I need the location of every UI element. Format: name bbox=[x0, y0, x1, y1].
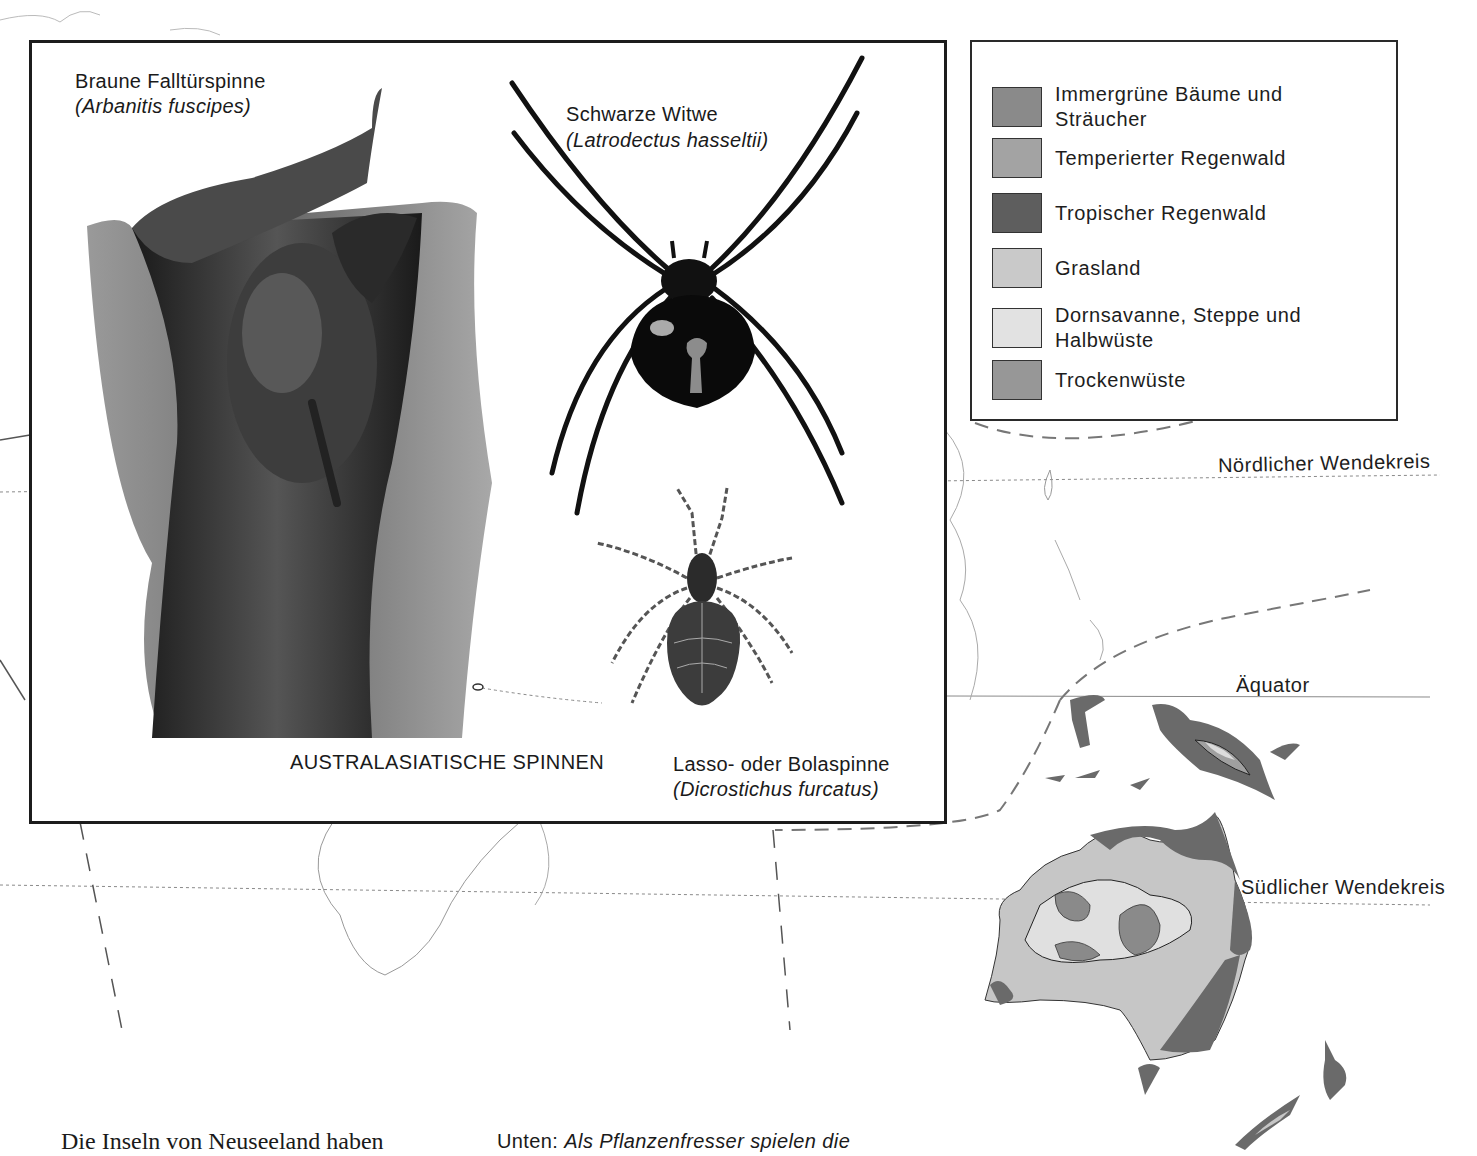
legend-swatch bbox=[992, 360, 1042, 400]
equator-line bbox=[945, 696, 1430, 697]
legend-swatch bbox=[992, 308, 1042, 348]
legend-label: Tropischer Regenwald bbox=[1055, 201, 1266, 226]
new-zealand bbox=[1235, 1040, 1346, 1150]
legend-label: Grasland bbox=[1055, 256, 1141, 281]
legend-item-evergreen: Immergrüne Bäume und Sträucher bbox=[992, 82, 1283, 132]
trapdoor-spider-illustration bbox=[72, 83, 502, 743]
legend-swatch bbox=[992, 248, 1042, 288]
south-tropic-label: Südlicher Wendekreis bbox=[1241, 876, 1445, 899]
australia bbox=[985, 812, 1252, 1095]
legend-label: Dornsavanne, Steppe und Halbwüste bbox=[1055, 303, 1301, 353]
legend-label: Trockenwüste bbox=[1055, 368, 1186, 393]
legend-swatch bbox=[992, 138, 1042, 178]
legend-item-thorn-savanna: Dornsavanne, Steppe und Halbwüste bbox=[992, 303, 1301, 353]
vegetation-legend: Immergrüne Bäume und Sträucher Temperier… bbox=[970, 40, 1398, 421]
inset-title: AUSTRALASIATISCHE SPINNEN bbox=[290, 751, 604, 774]
black-widow-illustration bbox=[502, 53, 902, 523]
legend-item-grassland: Grasland bbox=[992, 248, 1141, 288]
legend-swatch bbox=[992, 87, 1042, 127]
bolas-spider-latin: (Dicrostichus furcatus) bbox=[673, 778, 879, 801]
equator-label: Äquator bbox=[1236, 674, 1310, 697]
legend-swatch bbox=[992, 193, 1042, 233]
figure-caption: Unten: Als Pflanzenfresser spielen die bbox=[497, 1130, 850, 1153]
caption-prefix: Unten: bbox=[497, 1130, 558, 1152]
legend-item-temperate-rainforest: Temperierter Regenwald bbox=[992, 138, 1286, 178]
legend-item-dry-desert: Trockenwüste bbox=[992, 360, 1186, 400]
legend-label: Temperierter Regenwald bbox=[1055, 146, 1286, 171]
legend-label: Immergrüne Bäume und Sträucher bbox=[1055, 82, 1283, 132]
legend-item-tropical-rainforest: Tropischer Regenwald bbox=[992, 193, 1266, 233]
north-tropic-label: Nördlicher Wendekreis bbox=[1218, 450, 1431, 477]
spider-inset-panel: Braune Falltürspinne (Arbanitis fuscipes… bbox=[29, 40, 947, 824]
bolas-spider-name: Lasso- oder Bolaspinne bbox=[673, 753, 890, 776]
body-text: Die Inseln von Neuseeland haben bbox=[61, 1128, 384, 1155]
caption-italic: Als Pflanzenfresser spielen die bbox=[564, 1130, 850, 1152]
new-guinea-region bbox=[1045, 695, 1300, 800]
bolas-spider-illustration bbox=[462, 483, 822, 743]
